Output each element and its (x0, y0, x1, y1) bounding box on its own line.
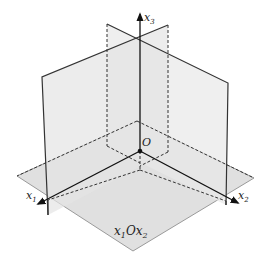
x3-label: x3 (144, 11, 155, 26)
x2-label: x2 (238, 189, 249, 204)
x1-label: x1 (26, 189, 37, 204)
coordinate-planes-diagram: O x3 x1 x2 x1Ox2 (0, 0, 269, 266)
origin-point (138, 149, 143, 154)
origin-label: O (142, 136, 151, 149)
